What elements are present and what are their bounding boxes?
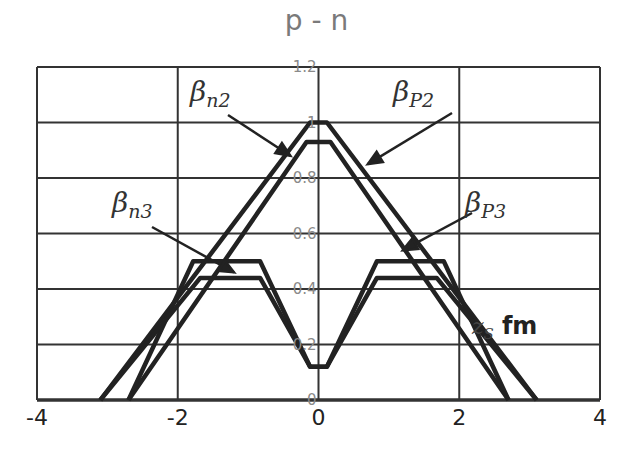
- plot-area: [0, 0, 633, 453]
- y-tick-label: 1.2: [293, 58, 317, 76]
- y-tick-label: 0: [307, 391, 317, 409]
- x-axis-label: zSfm: [472, 312, 537, 343]
- y-tick-label: 0.8: [293, 169, 317, 187]
- y-tick-label: 1: [307, 114, 317, 132]
- x-axis-variable: zS: [472, 314, 494, 339]
- y-tick-label: 0.4: [293, 280, 317, 298]
- label-beta-p2: βP2: [393, 75, 434, 111]
- y-tick-label: 0.2: [293, 336, 317, 354]
- x-axis-unit: fm: [502, 312, 537, 340]
- label-beta-p3: βP3: [465, 186, 506, 222]
- x-tick-label: -2: [167, 405, 189, 430]
- label-beta-n3: βn3: [112, 186, 153, 222]
- x-tick-label: 2: [452, 405, 466, 430]
- x-tick-label: -4: [26, 405, 48, 430]
- x-tick-label: 4: [593, 405, 607, 430]
- grid-lines: [37, 67, 600, 400]
- label-beta-n2: βn2: [190, 75, 231, 111]
- y-tick-label: 0.6: [293, 225, 317, 243]
